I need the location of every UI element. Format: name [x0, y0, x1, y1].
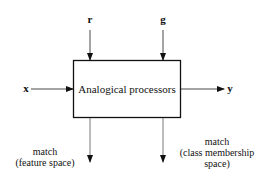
match-class-line1: match: [172, 136, 262, 147]
match-class-line2: (class membership: [172, 147, 262, 158]
input-g-label: g: [158, 14, 168, 25]
processor-label: Analogical processors: [73, 60, 181, 118]
match-class-line3: space): [172, 158, 262, 169]
match-feature-line2: (feature space): [10, 157, 80, 168]
match-feature-line1: match: [10, 146, 80, 157]
output-y-label: y: [225, 83, 235, 94]
input-r-label: r: [85, 14, 95, 25]
input-x-label: x: [21, 83, 31, 94]
